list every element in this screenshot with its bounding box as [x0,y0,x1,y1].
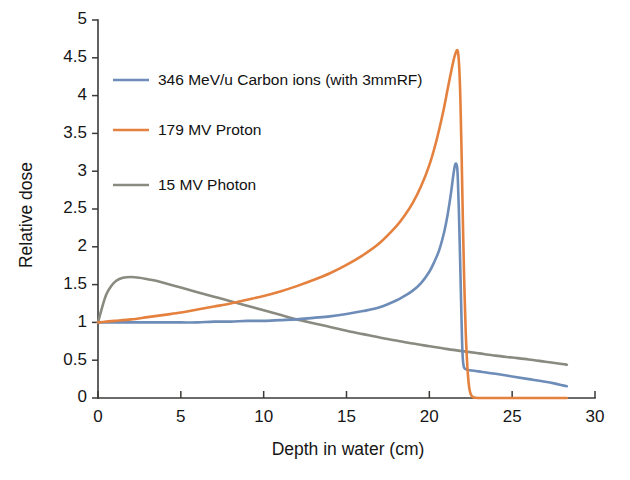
x-axis-title: Depth in water (cm) [272,439,425,459]
y-axis: 00.511.522.533.544.55 [63,9,98,406]
x-tick-label: 15 [337,407,356,426]
x-tick-label: 0 [93,407,102,426]
x-tick-label: 10 [254,407,273,426]
series-line [98,163,567,386]
y-tick-label: 2.5 [63,198,87,217]
y-tick-label: 5 [78,9,87,28]
y-tick-label: 3.5 [63,123,87,142]
y-tick-label: 1 [78,312,87,331]
depth-dose-chart: 00.511.522.533.544.55 051015202530 Relat… [0,0,630,480]
y-tick-label: 0 [78,387,87,406]
legend-label: 346 MeV/u Carbon ions (with 3mmRF) [158,71,422,88]
y-tick-label: 2 [78,236,87,255]
series-line [98,277,567,365]
y-tick-label: 4.5 [63,47,87,66]
x-tick-label: 30 [586,407,605,426]
series-layer [98,50,567,398]
x-tick-label: 5 [176,407,185,426]
y-axis-title: Relative dose [16,162,36,268]
chart-legend: 346 MeV/u Carbon ions (with 3mmRF)179 MV… [113,71,422,193]
y-tick-label: 3 [78,161,87,180]
y-tick-label: 1.5 [63,274,87,293]
chart-canvas: 00.511.522.533.544.55 051015202530 Relat… [0,0,630,480]
legend-label: 15 MV Photon [158,176,256,193]
y-tick-label: 0.5 [63,350,87,369]
x-axis: 051015202530 [93,391,604,426]
series-line [98,50,567,398]
x-tick-label: 20 [420,407,439,426]
x-tick-label: 25 [503,407,522,426]
legend-label: 179 MV Proton [158,121,261,138]
y-tick-label: 4 [78,85,87,104]
